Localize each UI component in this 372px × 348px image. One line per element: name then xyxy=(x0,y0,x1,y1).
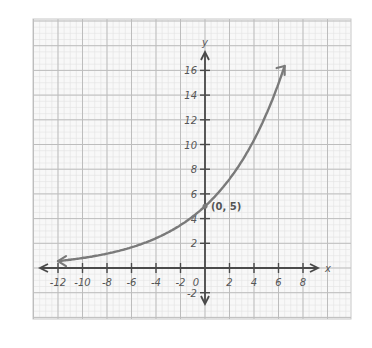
y-tick-label: 12 xyxy=(184,115,197,126)
origin-label: 0 xyxy=(193,277,199,288)
x-tick-label: -6 xyxy=(127,277,137,288)
x-tick-label: -4 xyxy=(151,277,161,288)
point-marker xyxy=(203,204,208,209)
x-tick-label: -10 xyxy=(74,277,90,288)
y-tick-label: 2 xyxy=(191,238,197,249)
y-tick-label: 10 xyxy=(184,140,197,151)
x-tick-label: 4 xyxy=(251,277,257,288)
y-tick-label: 8 xyxy=(191,164,197,175)
y-tick-label: 6 xyxy=(191,189,197,200)
x-tick-label: 8 xyxy=(300,277,306,288)
x-tick-label: 6 xyxy=(275,277,281,288)
x-tick-label: -2 xyxy=(176,277,186,288)
x-tick-label: -8 xyxy=(102,277,112,288)
exponential-graph: xy -12-10-8-6-4-22468-22468101214160 (0,… xyxy=(0,0,372,348)
x-tick-label: -12 xyxy=(50,277,66,288)
x-tick-label: 2 xyxy=(226,277,232,288)
y-tick-label: -2 xyxy=(187,288,197,299)
x-axis-label: x xyxy=(324,263,331,274)
y-tick-label: 14 xyxy=(184,90,197,101)
y-axis-label: y xyxy=(201,37,209,48)
point-label: (0, 5) xyxy=(211,201,241,212)
y-tick-label: 16 xyxy=(184,65,197,76)
